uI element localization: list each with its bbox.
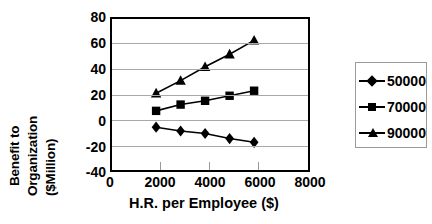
legend-label: 70000 xyxy=(387,100,426,114)
x-tick-mark xyxy=(209,162,210,170)
legend-label: 90000 xyxy=(387,126,426,140)
series-90000 xyxy=(151,35,259,97)
x-tick-label: 2000 xyxy=(135,174,185,190)
x-tick-mark xyxy=(160,162,161,170)
y-tick-label: 20 xyxy=(62,88,106,102)
x-tick-label: 6000 xyxy=(235,174,285,190)
y-tick-label: 80 xyxy=(62,10,106,24)
x-tick-label: 0 xyxy=(85,174,135,190)
x-tick-label: 8000 xyxy=(285,174,335,190)
y-tick-label: 0 xyxy=(62,114,106,128)
y-tick-label: 40 xyxy=(62,62,106,76)
x-axis-tick-labels: 0 2000 4000 6000 8000 xyxy=(0,174,432,194)
square-marker-icon xyxy=(359,100,385,114)
gridline xyxy=(112,69,308,70)
y-tick-label: 60 xyxy=(62,36,106,50)
x-tick-mark xyxy=(258,162,259,170)
gridline xyxy=(112,146,308,147)
series-70000 xyxy=(152,87,258,116)
gridline xyxy=(112,95,308,96)
x-axis-title: H.R. per Employee ($) xyxy=(74,195,334,211)
x-tick-label: 4000 xyxy=(185,174,235,190)
y-axis-title: Benefit to Organization ($Million) xyxy=(0,0,66,200)
series-50000 xyxy=(152,122,259,148)
legend-item-90000[interactable]: 90000 xyxy=(356,120,426,146)
line-chart: Benefit to Organization ($Million) 80 60… xyxy=(0,0,432,224)
legend-item-50000[interactable]: 50000 xyxy=(356,68,426,94)
diamond-marker-icon xyxy=(359,74,385,88)
y-tick-label: -20 xyxy=(62,140,106,154)
legend-item-70000[interactable]: 70000 xyxy=(356,94,426,120)
gridline xyxy=(112,43,308,44)
triangle-marker-icon xyxy=(359,126,385,140)
gridline xyxy=(112,120,308,121)
plot-area xyxy=(110,17,310,172)
legend-label: 50000 xyxy=(387,74,426,88)
chart-legend: 50000 70000 90000 xyxy=(355,62,427,148)
y-axis-tick-labels: 80 60 40 20 0 -20 -40 xyxy=(58,0,106,190)
